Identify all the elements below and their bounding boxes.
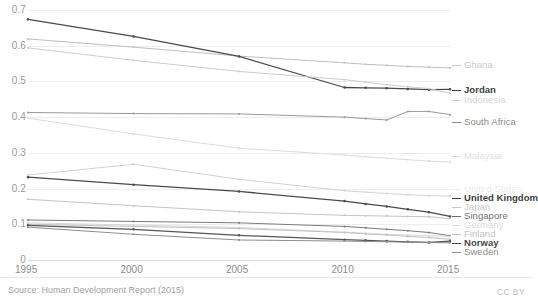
series-point [407,194,409,196]
series-point [386,215,388,217]
legend-leader-line [452,225,461,226]
series-point [133,59,135,61]
y-tick-label: 0.5 [0,76,26,86]
series-point [238,55,241,58]
series-point [449,218,451,220]
series-point [132,183,135,186]
legend-label[interactable]: Sweden [464,247,499,257]
license-note: CC BY [497,287,525,297]
legend-label[interactable]: Malaysia [464,151,502,161]
series-point [449,242,451,244]
legend-leader-line [452,252,461,253]
series-point [27,38,29,40]
series-point [238,178,240,180]
y-tick-label: 0.3 [0,148,26,158]
series-point [386,64,388,66]
series-point [238,211,240,213]
legend-label[interactable]: Indonesia [464,95,506,105]
series-point [449,67,451,69]
series-point [238,190,241,193]
y-tick-label: 0.6 [0,41,26,51]
series-point [428,211,431,214]
series-point [386,84,388,86]
series-point [27,112,29,114]
series-point [407,215,409,217]
series-point [449,235,451,237]
series-point [428,110,430,112]
series-point [343,200,346,203]
series-point [343,86,346,89]
series-point [27,198,29,200]
legend-leader-line [452,100,461,101]
series-point [133,225,135,227]
series-point [27,226,29,228]
series-point [449,92,451,94]
series-point [238,113,240,115]
series-point [238,147,240,149]
series-point [238,228,240,230]
y-tick-label: 0.4 [0,112,26,122]
series-point [407,88,410,91]
y-tick-label: 0.1 [0,219,26,229]
series-point [27,219,29,221]
series-point [386,193,388,195]
series-point [344,240,346,242]
plot-area [28,10,450,260]
series-point [238,234,241,237]
series-point [344,190,346,192]
series-point [365,191,367,193]
series-point [132,228,135,231]
legend-leader-line [452,189,461,190]
series-line [28,19,450,89]
series-point [386,241,388,243]
series-point [428,237,430,239]
series-point [407,110,409,112]
series-point [407,235,409,237]
series-point [133,46,135,48]
series-point [133,163,135,165]
series-point [238,70,240,72]
series-point [238,239,240,241]
legend-leader-line [452,243,461,244]
series-point [407,65,409,67]
y-tick-label: 0.7 [0,5,26,15]
legend-label[interactable]: Ghana [464,60,493,70]
series-point [133,205,135,207]
series-point [344,232,346,234]
series-point [449,195,451,197]
footer-divider [0,277,532,278]
series-point [344,225,346,227]
series-line [28,111,450,120]
legend-leader-line [452,65,461,66]
x-tick-label: 2005 [226,264,248,275]
source-note: Source: Human Development Report (2015) [8,285,184,295]
series-point [385,87,388,90]
series-line [28,39,450,68]
legend-label[interactable]: South Africa [464,117,516,127]
series-point [27,47,29,49]
series-point [365,63,367,65]
series-point [365,81,367,83]
series-point [364,203,367,206]
series-point [449,114,451,116]
series-point [27,174,29,176]
legend-leader-line [452,156,461,157]
legend-leader-line [452,207,461,208]
series-line [28,177,450,216]
x-tick-label: 2015 [437,264,459,275]
x-axis-line [28,260,450,261]
series-point [365,118,367,120]
series-point [133,233,135,235]
series-point [133,133,135,135]
series-point [407,86,409,88]
legend-leader-line [452,216,461,217]
series-point [344,79,346,81]
series-point [238,222,240,224]
series-point [27,117,29,119]
series-point [407,208,410,211]
series-point [385,205,388,208]
series-point [133,220,135,222]
series-point [344,116,346,118]
series-point [365,227,367,229]
